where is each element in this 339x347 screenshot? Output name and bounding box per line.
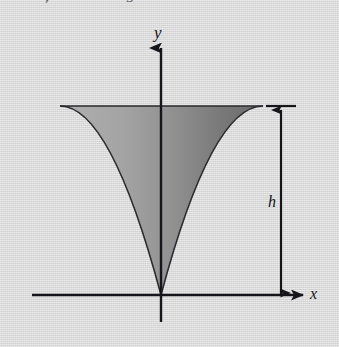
figure-canvas: [0, 0, 339, 347]
x-axis-label: x: [310, 286, 317, 302]
parabola-height-figure: y 5: [0, 0, 339, 347]
y-axis-label: y: [154, 24, 162, 41]
height-dimension-label: h: [268, 194, 276, 210]
